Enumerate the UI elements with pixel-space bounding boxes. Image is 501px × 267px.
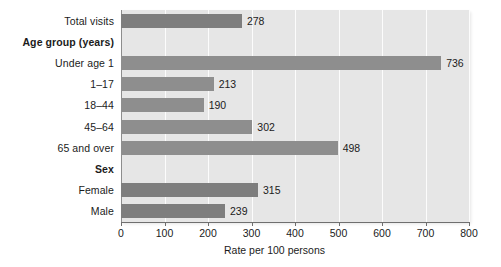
x-axis-tick: [121, 222, 122, 226]
group-header-label: Age group (years): [22, 36, 114, 48]
x-axis-tick-label: 200: [199, 227, 217, 239]
x-axis-tick: [426, 222, 427, 226]
x-axis-title: Rate per 100 persons: [0, 244, 501, 256]
category-label-column: Total visitsAge group (years)Under age 1…: [0, 10, 118, 222]
category-label: Male: [91, 205, 114, 217]
bar: [121, 183, 258, 197]
x-axis-tick: [295, 222, 296, 226]
bar: [121, 14, 242, 28]
x-axis-tick: [208, 222, 209, 226]
category-label: Under age 1: [55, 57, 114, 69]
bar-value-label: 213: [219, 78, 237, 90]
category-label: 1–17: [90, 78, 114, 90]
bar-chart: Characteristic rate emergency department…: [0, 0, 501, 267]
x-axis-tick: [252, 222, 253, 226]
category-label: Total visits: [64, 15, 114, 27]
bar-value-label: 302: [257, 121, 275, 133]
category-label: Female: [78, 184, 114, 196]
bar: [121, 77, 214, 91]
x-axis-tick: [339, 222, 340, 226]
bar-value-label: 278: [247, 15, 265, 27]
bar: [121, 120, 252, 134]
x-axis-tick-label: 500: [330, 227, 348, 239]
x-axis-tick: [469, 222, 470, 226]
gridline: [426, 10, 427, 222]
x-axis-tick-label: 600: [373, 227, 391, 239]
x-axis-tick: [382, 222, 383, 226]
gridline: [469, 10, 470, 222]
x-axis-tick-label: 800: [460, 227, 478, 239]
bar: [121, 141, 338, 155]
bar-value-label: 736: [446, 57, 464, 69]
bar-value-label: 190: [209, 99, 227, 111]
bar: [121, 98, 204, 112]
category-label: 45–64: [84, 121, 114, 133]
category-label: 65 and over: [57, 142, 114, 154]
x-axis-tick-label: 100: [156, 227, 174, 239]
x-axis-tick-label: 400: [286, 227, 304, 239]
group-header-label: Sex: [95, 163, 114, 175]
gridline: [382, 10, 383, 222]
x-axis-title-text: Rate per 100 persons: [224, 244, 325, 256]
bar: [121, 56, 441, 70]
x-axis-tick-label: 300: [243, 227, 261, 239]
bar-value-label: 498: [343, 142, 361, 154]
bar-value-label: 239: [230, 205, 248, 217]
x-axis-tick-label: 700: [417, 227, 435, 239]
gridline: [339, 10, 340, 222]
bar-value-label: 315: [263, 184, 281, 196]
gridline: [295, 10, 296, 222]
x-axis-tick-label: 0: [118, 227, 124, 239]
plot-area: [121, 10, 469, 222]
bar: [121, 204, 225, 218]
x-axis-tick: [165, 222, 166, 226]
category-label: 18–44: [84, 99, 114, 111]
